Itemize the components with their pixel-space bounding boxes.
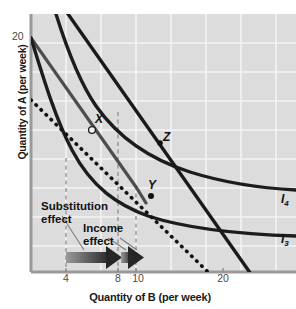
point-label-z: Z [163,130,170,144]
point-marker-z [157,140,163,146]
y-tick-label-20: 20 [12,30,24,42]
x-axis-title: Quantity of B (per week) [30,291,270,303]
x-tick-label-10: 10 [126,272,150,284]
x-tick-label-20: 20 [211,272,235,284]
substitution-effect-arrow [66,246,122,269]
point-marker-y [148,193,154,199]
chart-figure: Quantity of A (per week) Quantity of B (… [0,0,296,309]
curve-i4 [56,14,296,190]
chart-canvas [0,0,296,309]
point-label-x: X [95,112,103,126]
substitution-effect-line1: Substitution [41,200,108,213]
point-label-y: Y [148,178,156,192]
y-axis-title: Quantity of A (per week) [16,22,28,182]
income-effect-line1: Income [83,222,123,235]
curve-label-i4-sub: 4 [284,199,288,208]
income-effect-label: Income effect [83,222,123,247]
curve-label-i3-sub: 3 [284,239,288,248]
curve-label-i3: I3 [281,232,289,248]
budget-line-original [31,38,146,203]
point-marker-x [89,127,96,134]
x-tick-label-4: 4 [54,272,78,284]
curve-label-i4: I4 [281,192,289,208]
income-effect-line2: effect [83,235,123,248]
